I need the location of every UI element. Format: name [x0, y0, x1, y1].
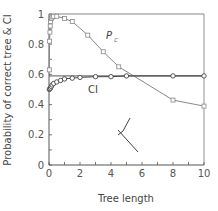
data-point: [93, 74, 97, 78]
series-pc: [47, 14, 206, 108]
data-point: [202, 74, 206, 78]
data-point: [109, 74, 113, 78]
ci-label: CI: [88, 84, 98, 95]
data-point: [117, 65, 121, 69]
data-point: [124, 74, 128, 78]
x-tick-label: 10: [198, 168, 211, 179]
chart: 024681000.20.40.60.81 Tree length Probab…: [0, 0, 218, 211]
data-point: [48, 39, 52, 43]
x-tick-label: 4: [108, 168, 114, 179]
data-point: [171, 98, 175, 102]
data-point: [62, 77, 66, 81]
x-tick-label: 0: [46, 168, 52, 179]
series-line: [49, 16, 204, 106]
pc-label: P c: [106, 30, 118, 44]
data-point: [86, 33, 90, 37]
data-point: [202, 104, 206, 108]
x-tick-label: 2: [77, 168, 83, 179]
x-tick-label: 6: [139, 168, 145, 179]
data-point: [70, 20, 74, 24]
data-point: [55, 14, 59, 18]
y-axis-label: Probability of correct tree & CI: [2, 14, 13, 165]
y-tick-label: 0: [38, 160, 44, 171]
tree-inset-icon: [118, 118, 138, 152]
data-point: [101, 50, 105, 54]
data-point: [63, 17, 67, 21]
y-tick-label: 0.8: [28, 39, 44, 50]
pc-label-sub: c: [114, 36, 118, 44]
axes: 024681000.20.40.60.81: [28, 9, 210, 180]
data-point: [78, 75, 82, 79]
y-tick-label: 0.2: [28, 129, 44, 140]
data-point: [70, 76, 74, 80]
plot-area: [47, 14, 206, 108]
y-tick-label: 0.4: [28, 99, 44, 110]
data-point: [48, 30, 52, 34]
pc-label-text: P: [106, 30, 113, 41]
y-tick-label: 1: [38, 9, 44, 20]
data-point: [47, 68, 51, 72]
x-axis-label: Tree length: [97, 193, 154, 204]
x-tick-label: 8: [170, 168, 176, 179]
data-point: [171, 74, 175, 78]
data-point: [48, 24, 52, 28]
y-tick-label: 0.6: [28, 69, 44, 80]
